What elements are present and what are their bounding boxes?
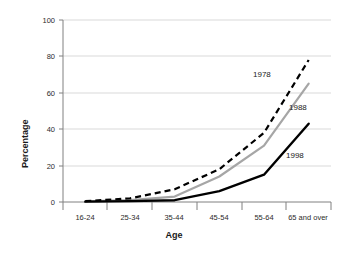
- x-tick-label-35-44: 35-44: [164, 213, 183, 222]
- y-tick-label-60: 60: [47, 89, 55, 98]
- y-tick-label-0: 0: [51, 198, 55, 207]
- y-axis-title: Percentage: [20, 119, 30, 168]
- x-tick-label-16-24: 16-24: [75, 213, 94, 222]
- series-label-1998: 1998: [286, 151, 304, 160]
- y-tick-label-40: 40: [47, 125, 55, 134]
- y-tick-label-20: 20: [47, 162, 55, 171]
- x-tick-label-65-and-over: 65 and over: [288, 213, 328, 222]
- series-label-1978: 1978: [253, 70, 271, 79]
- x-tick-label-25-34: 25-34: [120, 213, 139, 222]
- line-chart-figure: 100 80 60 40 20 0 Percentage 16-24 25-34…: [0, 0, 338, 257]
- chart-canvas: 100 80 60 40 20 0 Percentage 16-24 25-34…: [0, 0, 338, 257]
- x-axis-title: Age: [165, 230, 182, 240]
- series-label-1988: 1988: [289, 103, 307, 112]
- x-tick-label-55-64: 55-64: [254, 213, 273, 222]
- y-tick-label-100: 100: [42, 16, 55, 25]
- x-tick-label-45-54: 45-54: [209, 213, 228, 222]
- y-tick-label-80: 80: [47, 52, 55, 61]
